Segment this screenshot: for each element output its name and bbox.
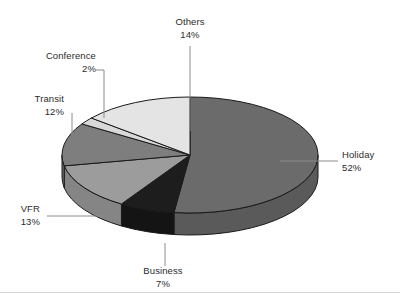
slice-label-holiday-name: Holiday — [342, 149, 400, 162]
pie-chart-figure: Others 14% Conference 2% Transit 12% VFR… — [0, 0, 400, 301]
slice-label-others: Others 14% — [138, 16, 242, 41]
slice-label-conference-percent: 2% — [0, 63, 96, 76]
slice-label-business: Business 7% — [110, 265, 216, 290]
slice-label-vfr-name: VFR — [0, 203, 40, 216]
slice-label-vfr-percent: 13% — [0, 216, 40, 229]
slice-label-transit-percent: 12% — [0, 106, 64, 119]
slice-label-conference: Conference 2% — [0, 50, 96, 75]
pie-chart-canvas — [0, 0, 400, 301]
slice-label-business-percent: 7% — [110, 278, 216, 291]
slice-label-transit: Transit 12% — [0, 93, 64, 118]
slice-label-transit-name: Transit — [0, 93, 64, 106]
slice-label-business-name: Business — [110, 265, 216, 278]
slice-label-others-name: Others — [138, 16, 242, 29]
slice-label-vfr: VFR 13% — [0, 203, 40, 228]
slice-label-others-percent: 14% — [138, 29, 242, 42]
slice-label-holiday-percent: 52% — [342, 162, 400, 175]
slice-label-conference-name: Conference — [0, 50, 96, 63]
slice-label-holiday: Holiday 52% — [342, 149, 400, 174]
leader-line-conference — [96, 70, 104, 118]
